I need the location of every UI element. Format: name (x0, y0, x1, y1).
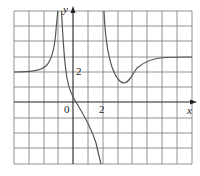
middle-branch-curve (62, 11, 102, 164)
y-tick-label-2: 2 (76, 66, 82, 77)
left-branch-curve (14, 11, 58, 72)
x-tick-label-2: 2 (99, 104, 105, 115)
origin-label: 0 (64, 104, 70, 115)
function-graph (0, 0, 200, 176)
y-axis-label: y (63, 4, 68, 15)
x-axis-label: x (187, 105, 192, 116)
grid (14, 11, 192, 164)
y-axis-arrow-icon (71, 6, 76, 13)
